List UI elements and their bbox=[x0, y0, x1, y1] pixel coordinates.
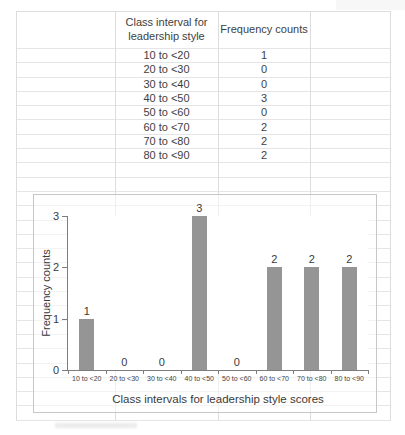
x-tick-label: 20 to <30 bbox=[106, 374, 144, 383]
table-row: 20 to <300 bbox=[0, 62, 405, 76]
x-tick-label: 60 to <70 bbox=[256, 374, 294, 383]
cell-count: 3 bbox=[218, 91, 310, 105]
bar-value-label: 2 bbox=[259, 252, 289, 266]
bar-value-label: 0 bbox=[147, 355, 177, 369]
cell-interval: 10 to <20 bbox=[115, 48, 218, 62]
bar bbox=[192, 216, 207, 370]
x-axis-title: Class intervals for leadership style sco… bbox=[68, 393, 368, 405]
x-tick-label: 70 to <80 bbox=[293, 374, 331, 383]
cell-count: 0 bbox=[218, 105, 310, 119]
cell-count: 0 bbox=[218, 62, 310, 76]
bar-value-label: 0 bbox=[109, 355, 139, 369]
page-edge-sliver bbox=[336, 0, 405, 10]
table-row: 30 to <400 bbox=[0, 77, 405, 91]
x-tick-label: 80 to <90 bbox=[331, 374, 369, 383]
bar-value-label: 3 bbox=[184, 201, 214, 215]
bar-value-label: 0 bbox=[222, 355, 252, 369]
x-tick-label: 30 to <40 bbox=[143, 374, 181, 383]
y-axis-title: Frequency counts bbox=[40, 249, 52, 336]
caption-smudge bbox=[55, 423, 137, 428]
cell-count: 1 bbox=[218, 48, 310, 62]
cell-count: 2 bbox=[218, 120, 310, 134]
y-tick bbox=[62, 370, 67, 371]
table-row: 10 to <201 bbox=[0, 48, 405, 62]
table-row: 70 to <802 bbox=[0, 134, 405, 148]
cell-interval: 60 to <70 bbox=[115, 120, 218, 134]
cell-count: 2 bbox=[218, 134, 310, 148]
cell-interval: 50 to <60 bbox=[115, 105, 218, 119]
cell-count: 2 bbox=[218, 148, 310, 162]
x-tick-label: 10 to <20 bbox=[68, 374, 106, 383]
cell-interval: 40 to <50 bbox=[115, 91, 218, 105]
cell-count: 0 bbox=[218, 77, 310, 91]
bar-value-label: 2 bbox=[334, 252, 364, 266]
y-axis-line bbox=[67, 216, 68, 371]
x-tick bbox=[368, 371, 369, 374]
bar bbox=[267, 267, 282, 370]
table-row: 50 to <600 bbox=[0, 105, 405, 119]
table-header-class-interval: Class interval for leadership style bbox=[116, 12, 217, 47]
bar bbox=[342, 267, 357, 370]
x-tick-label: 50 to <60 bbox=[218, 374, 256, 383]
x-tick-label: 40 to <50 bbox=[181, 374, 219, 383]
cell-interval: 20 to <30 bbox=[115, 62, 218, 76]
table-row: 80 to <902 bbox=[0, 148, 405, 162]
y-tick bbox=[62, 267, 67, 268]
cell-interval: 30 to <40 bbox=[115, 77, 218, 91]
y-tick-label: 3 bbox=[44, 209, 59, 223]
figure-canvas: Class interval for leadership style Freq… bbox=[0, 0, 405, 435]
bar bbox=[79, 319, 94, 370]
plot-area bbox=[68, 216, 368, 370]
table-row: 40 to <503 bbox=[0, 91, 405, 105]
bar-value-label: 1 bbox=[72, 304, 102, 318]
y-tick bbox=[62, 319, 67, 320]
table-row: 60 to <702 bbox=[0, 120, 405, 134]
table-header-frequency-counts: Frequency counts bbox=[219, 12, 309, 47]
bar bbox=[304, 267, 319, 370]
cell-interval: 80 to <90 bbox=[115, 148, 218, 162]
cell-interval: 70 to <80 bbox=[115, 134, 218, 148]
bar-value-label: 2 bbox=[297, 252, 327, 266]
y-tick-label: 0 bbox=[44, 363, 59, 377]
y-tick bbox=[62, 216, 67, 217]
